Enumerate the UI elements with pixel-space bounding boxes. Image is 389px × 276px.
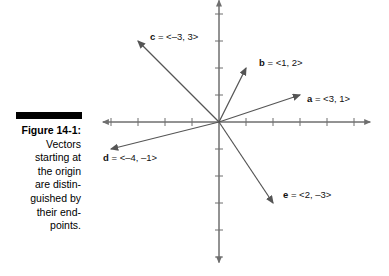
- vector-label-c: c = <–3, 3>: [150, 31, 198, 42]
- vector-label-d: d = <–4, –1>: [103, 152, 157, 163]
- vector-label-e: e = <2, –3>: [283, 189, 331, 200]
- figure-caption-title: Figure 14-1:: [0, 124, 84, 138]
- vector-c: [138, 41, 219, 122]
- figure-caption-text: Vectors starting at the origin are disti…: [0, 138, 84, 233]
- vector-label-b: b = <1, 2>: [259, 57, 303, 68]
- axes: [103, 1, 370, 263]
- figure-page: Figure 14-1: Vectors starting at the ori…: [0, 0, 389, 276]
- vector-label-a: a = <3, 1>: [307, 93, 350, 104]
- figure-caption: Figure 14-1: Vectors starting at the ori…: [0, 112, 84, 233]
- vector-e: [219, 122, 273, 203]
- caption-rule: [16, 112, 82, 119]
- vector-a: [219, 95, 300, 122]
- vector-d: [111, 122, 219, 149]
